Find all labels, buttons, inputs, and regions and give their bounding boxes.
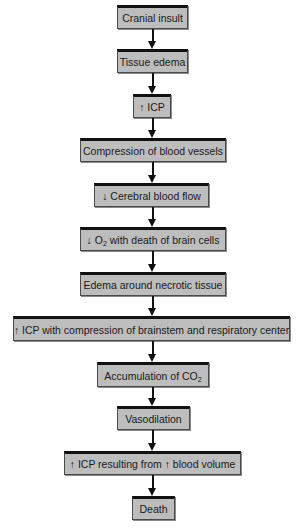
node-label: Edema around necrotic tissue (84, 279, 223, 291)
node-compression-blood-vessels: Compression of blood vessels (80, 138, 226, 162)
node-icp-brainstem-compression: ↑ ICP with compression of brainstem and … (13, 316, 290, 341)
node-tissue-edema: Tissue edema (117, 49, 188, 73)
node-edema-necrotic-tissue: Edema around necrotic tissue (80, 272, 226, 296)
node-label: Compression of blood vessels (83, 145, 223, 157)
node-label: Tissue edema (120, 56, 186, 68)
node-label: Accumulation of CO2 (104, 370, 201, 382)
node-decreased-cerebral-blood-flow: ↓ Cerebral blood flow (94, 183, 209, 207)
node-decreased-o2-brain-cell-death: ↓ O2 with death of brain cells (80, 227, 226, 251)
arrowhead-icon (148, 398, 156, 406)
node-icp-blood-volume: ↑ ICP resulting from ↑ blood volume (64, 451, 241, 475)
arrowhead-icon (148, 219, 156, 227)
node-label: Cranial insult (122, 12, 183, 24)
node-label: Death (139, 503, 167, 515)
arrowhead-icon (148, 86, 156, 94)
node-death: Death (132, 496, 175, 520)
arrowhead-icon (148, 264, 156, 272)
arrowhead-icon (148, 41, 156, 49)
arrowhead-icon (148, 354, 156, 362)
node-accumulation-co2: Accumulation of CO2 (97, 362, 209, 387)
node-label: Vasodilation (125, 413, 181, 425)
node-label: ↑ ICP resulting from ↑ blood volume (70, 458, 236, 470)
node-cranial-insult: Cranial insult (117, 5, 188, 29)
arrowhead-icon (148, 308, 156, 316)
node-label: ↑ ICP with compression of brainstem and … (14, 324, 289, 336)
node-label: ↑ ICP (139, 101, 165, 113)
node-label: ↓ Cerebral blood flow (102, 190, 201, 202)
arrowhead-icon (148, 130, 156, 138)
arrowhead-icon (148, 175, 156, 183)
node-label: ↓ O2 with death of brain cells (87, 234, 220, 246)
arrowhead-icon (148, 488, 156, 496)
node-vasodilation: Vasodilation (117, 406, 190, 430)
node-increased-icp: ↑ ICP (133, 94, 171, 118)
arrowhead-icon (148, 443, 156, 451)
